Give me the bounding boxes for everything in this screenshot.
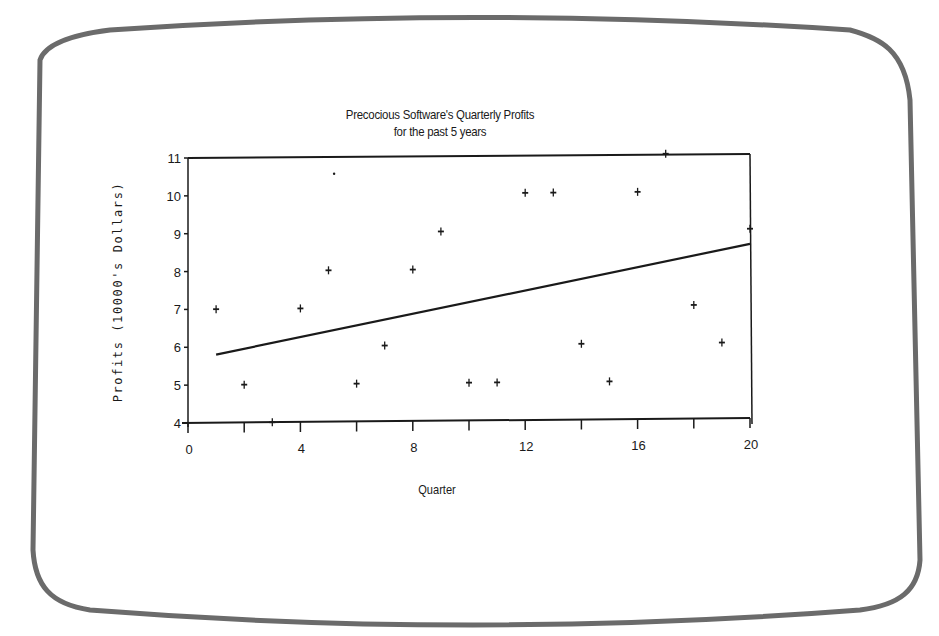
data-point <box>635 188 641 196</box>
y-tick-label: 9 <box>174 227 181 242</box>
data-point <box>691 301 697 309</box>
data-point <box>438 227 444 235</box>
x-tick-label: 8 <box>410 440 417 455</box>
data-point <box>747 225 753 233</box>
crt-screen: Precocious Software's Quarterly Profits … <box>0 0 939 636</box>
y-tick-label: 7 <box>174 302 181 317</box>
y-tick-label: 10 <box>167 189 181 204</box>
data-point <box>466 379 472 387</box>
y-tick-label: 5 <box>174 378 181 393</box>
y-tick-label: 11 <box>168 151 182 166</box>
data-point <box>354 380 360 388</box>
data-point <box>719 339 725 347</box>
regression-line <box>216 244 750 355</box>
data-point <box>241 381 247 389</box>
plot-area: 4567891011048121620 <box>0 0 939 636</box>
data-point <box>213 305 219 313</box>
x-tick-label: 16 <box>631 438 645 453</box>
data-point <box>663 150 669 158</box>
data-point <box>410 266 416 274</box>
y-tick-label: 6 <box>174 340 181 355</box>
x-tick-label: 20 <box>744 437 758 452</box>
data-point <box>494 378 500 386</box>
x-tick-label: 0 <box>185 442 192 457</box>
right-border-line <box>750 154 752 424</box>
x-axis-line <box>182 418 750 423</box>
x-tick-label: 12 <box>519 439 533 454</box>
data-point <box>297 304 303 312</box>
data-point <box>326 266 332 274</box>
trend-line <box>216 244 750 355</box>
data-point <box>550 189 556 197</box>
stray-dot <box>333 173 335 175</box>
data-point <box>578 340 584 348</box>
data-point <box>382 342 388 350</box>
data-point <box>607 377 613 385</box>
y-tick-label: 8 <box>174 265 181 280</box>
axes <box>182 154 752 427</box>
data-point <box>269 418 275 426</box>
data-points <box>213 150 753 427</box>
x-tick-label: 4 <box>298 441 305 456</box>
data-point <box>522 189 528 197</box>
y-tick-label: 4 <box>174 416 181 431</box>
